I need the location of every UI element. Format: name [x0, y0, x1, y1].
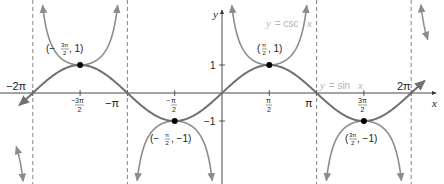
csc-branch	[43, 5, 118, 65]
y-tick-1: 1	[210, 60, 216, 71]
svg-text:y: y	[319, 79, 325, 91]
svg-text:−: −	[166, 97, 170, 104]
svg-text:2: 2	[78, 106, 82, 113]
svg-text:(−: (−	[46, 43, 55, 54]
annotation-3pi-2: ( 3π 2 , −1)	[345, 132, 377, 146]
x-tick-neg-2pi: −2π	[6, 80, 27, 92]
svg-text:y: y	[265, 17, 271, 29]
svg-text:x: x	[306, 17, 312, 29]
svg-text:x: x	[357, 79, 363, 91]
x-tick-pi: π	[305, 97, 313, 109]
svg-text:3π: 3π	[349, 132, 356, 138]
svg-text:2: 2	[166, 140, 170, 146]
csc-branch	[232, 5, 307, 65]
y-axis-label: y	[212, 8, 218, 20]
svg-text:(: (	[257, 43, 261, 54]
svg-text:= csc: = csc	[272, 18, 301, 29]
x-tick-neg-pi: −π	[105, 97, 119, 109]
x-tick-2pi: 2π	[397, 80, 411, 92]
svg-text:2: 2	[263, 50, 267, 56]
svg-text:, 1): , 1)	[69, 43, 83, 54]
svg-text:3π: 3π	[358, 97, 367, 104]
svg-text:2: 2	[351, 140, 355, 146]
csc-branch	[16, 147, 23, 182]
svg-text:π: π	[266, 97, 271, 104]
x-tick-pi-2: π 2	[266, 97, 272, 113]
x-tick-neg-3pi-2: −π − 3π 2	[71, 97, 84, 113]
svg-text:2: 2	[172, 106, 176, 113]
svg-text:π: π	[262, 42, 266, 48]
svg-text:(−: (−	[150, 133, 159, 144]
x-tick-neg-pi-2: − π 2	[166, 97, 177, 113]
annotation-neg-pi-2: (− π 2 , −1)	[150, 132, 191, 146]
csc-branch	[421, 5, 428, 40]
svg-text:= sin: = sin	[326, 80, 353, 91]
x-axis-label: x	[431, 97, 437, 109]
svg-text:2: 2	[63, 50, 67, 56]
sine-cosecant-graph: x y 1 −1 −2π −π π 2π −π − 3π 2 − π 2 π 2…	[0, 0, 444, 184]
svg-text:2: 2	[267, 106, 271, 113]
svg-text:3π: 3π	[75, 97, 84, 104]
svg-text:, 1): , 1)	[268, 43, 282, 54]
annotation-pi-2: ( π 2 , 1)	[257, 42, 282, 56]
key-point	[266, 62, 272, 68]
key-point	[77, 62, 83, 68]
x-tick-3pi-2: 3π 2	[358, 97, 367, 113]
svg-text:, −1): , −1)	[171, 133, 191, 144]
svg-text:π: π	[165, 132, 169, 138]
svg-text:, −1): , −1)	[357, 133, 377, 144]
annotation-neg-3pi-2: (− 3π 2 , 1)	[46, 42, 83, 56]
svg-text:3π: 3π	[61, 42, 68, 48]
svg-text:π: π	[171, 97, 176, 104]
legend-sin: y = sin x	[319, 79, 363, 91]
key-point	[172, 118, 178, 124]
csc-branch	[137, 121, 212, 181]
svg-text:2: 2	[361, 106, 365, 113]
csc-branch	[326, 121, 401, 181]
y-tick-neg1: −1	[204, 116, 216, 127]
key-point	[361, 118, 367, 124]
